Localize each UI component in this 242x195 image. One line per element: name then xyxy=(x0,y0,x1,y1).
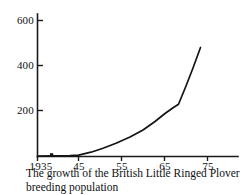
caption-line-2: breeding population xyxy=(26,181,238,195)
caption-line-1: The growth of the British Little Ringed … xyxy=(26,167,238,181)
plot-area: 200 400 600 1935 45 55 65 75 xyxy=(0,0,242,168)
y-axis-label-200: 200 xyxy=(4,105,34,116)
y-axis-label-400: 400 xyxy=(4,60,34,71)
y-axis-label-600: 600 xyxy=(4,15,34,26)
population-line xyxy=(38,48,201,157)
chart-caption: The growth of the British Little Ringed … xyxy=(26,167,238,194)
chart-figure: 200 400 600 1935 45 55 65 75 The growth … xyxy=(0,0,242,195)
chart-svg xyxy=(0,0,242,168)
